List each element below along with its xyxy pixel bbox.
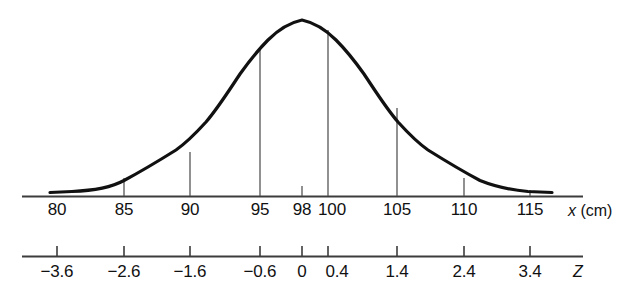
x-tick-label-105: 105 xyxy=(383,200,411,220)
x-tick-label-85: 85 xyxy=(115,200,134,220)
x-tick-label-115: 115 xyxy=(517,200,544,220)
z-axis-label: Z xyxy=(573,263,583,281)
z-tick-label-1-4: 1.4 xyxy=(385,262,408,282)
z-axis-ticks xyxy=(57,246,530,256)
z-tick-label-3-4: 3.4 xyxy=(518,262,541,282)
x-tick-label-95: 95 xyxy=(251,200,270,220)
z-tick-label-0: 0 xyxy=(297,262,306,282)
x-tick-label-90: 90 xyxy=(181,200,200,220)
z-axis-symbol: Z xyxy=(573,263,583,280)
bell-curve-plot xyxy=(0,0,632,307)
z-tick-label-0-4: 0.4 xyxy=(325,262,348,282)
x-tick-label-98: 98 xyxy=(293,200,312,220)
z-tick-label-neg-2-6: −2.6 xyxy=(108,262,141,282)
bell-curve-path xyxy=(50,20,552,193)
z-tick-label-neg-1-6: −1.6 xyxy=(174,262,207,282)
x-axis-symbol: x xyxy=(568,202,576,219)
normal-distribution-figure: 80 85 90 95 98 100 105 110 115 x (cm) −3… xyxy=(0,0,632,307)
z-tick-label-neg-0-6: −0.6 xyxy=(244,262,277,282)
drop-lines xyxy=(124,30,530,196)
z-tick-label-2-4: 2.4 xyxy=(452,262,475,282)
x-axis-unit: (cm) xyxy=(580,202,612,219)
z-tick-label-neg-3-6: −3.6 xyxy=(41,262,74,282)
x-tick-label-80: 80 xyxy=(48,200,67,220)
x-axis-label: x (cm) xyxy=(568,202,612,220)
x-tick-label-100: 100 xyxy=(318,200,346,220)
x-tick-label-110: 110 xyxy=(451,200,478,220)
